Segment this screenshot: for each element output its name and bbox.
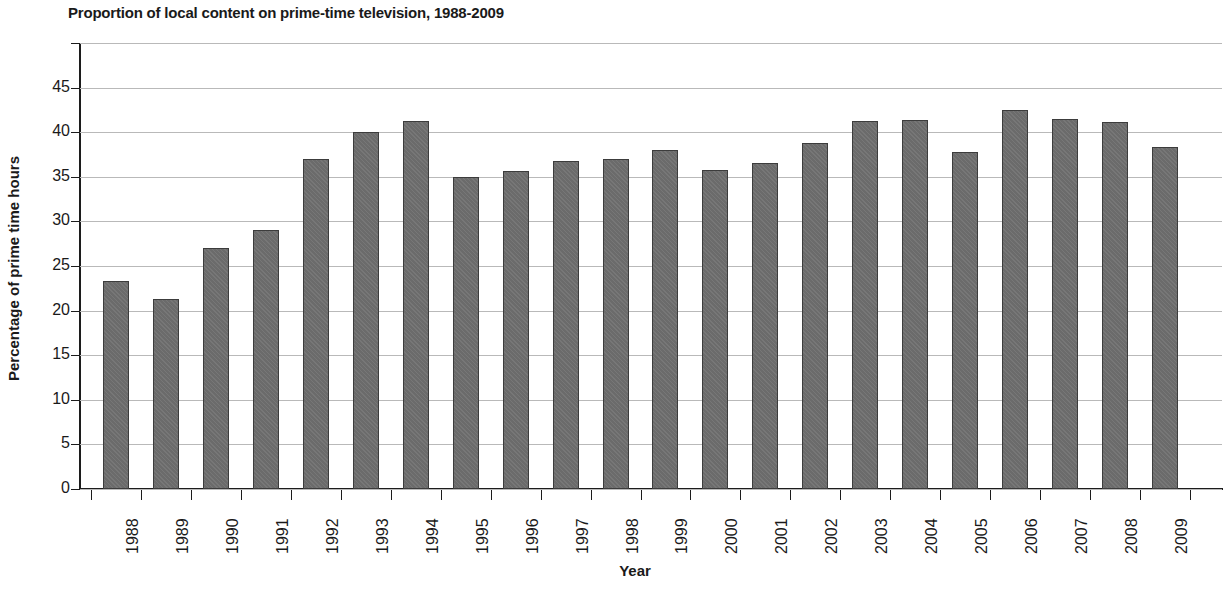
x-axis-tick-mark [291,490,292,500]
bar [852,121,878,489]
bar [1102,122,1128,489]
y-axis-tick-mark [71,43,80,44]
x-axis-tick-mark [1040,490,1041,500]
x-axis-tick-label-text: 1995 [474,518,492,554]
x-axis-tick-label: 2009 [1155,504,1175,556]
x-axis-tick-mark [990,490,991,500]
x-axis-tick-label: 1999 [655,504,675,556]
x-axis-tick-mark [1190,490,1191,500]
x-axis-tick-label: 1996 [506,504,526,556]
x-axis-tick-label: 2001 [755,504,775,556]
x-axis-tick-label: 2008 [1105,504,1125,556]
x-axis-tick-label-text: 2004 [923,518,941,554]
y-axis-tick-label: 45 [42,78,70,96]
y-axis-tick: 40 [32,122,70,142]
x-axis-tick-label-text: 1996 [524,518,542,554]
y-axis-tick-mark [71,88,80,89]
bar [153,299,179,489]
y-axis-tick-label: 40 [42,122,70,140]
y-axis-tick-mark [71,355,80,356]
bar [603,159,629,489]
x-axis-tick-mark [940,490,941,500]
bar [902,120,928,489]
bar [303,159,329,489]
gridline [79,177,1222,178]
bar [353,132,379,489]
x-axis-tick-mark [591,490,592,500]
x-axis-tick-label-text: 2001 [773,518,791,554]
gridline [79,400,1222,401]
bar [652,150,678,489]
y-axis-tick-mark [71,489,80,490]
gridline [79,88,1222,89]
x-axis-tick-label: 1998 [606,504,626,556]
y-axis-tick-label: 25 [42,256,70,274]
x-axis-tick-label-text: 2002 [823,518,841,554]
x-axis-tick-mark [890,490,891,500]
gridline [79,221,1222,222]
y-axis-tick-label: 20 [42,301,70,319]
x-axis-tick-mark [491,490,492,500]
x-axis-tick-label-text: 1991 [274,518,292,554]
bar [503,171,529,489]
y-axis-tick: 35 [32,167,70,187]
x-axis-tick-label-text: 1997 [574,518,592,554]
chart-figure: Proportion of local content on prime-tim… [0,0,1230,600]
x-axis-tick-label: 2004 [905,504,925,556]
x-axis-tick-mark [541,490,542,500]
y-axis-tick-mark [71,177,80,178]
x-axis-tick-label: 1995 [456,504,476,556]
x-axis-tick-label-text: 2005 [973,518,991,554]
x-axis-tick-mark [241,490,242,500]
x-axis-tick-label-text: 2000 [723,518,741,554]
y-axis-tick-mark [71,266,80,267]
x-axis-tick-label-text: 1999 [673,518,691,554]
plot-area [79,43,1222,489]
x-axis-tick-label: 1989 [156,504,176,556]
bar [952,152,978,489]
x-axis-tick-label: 1997 [556,504,576,556]
x-axis-tick-mark [690,490,691,500]
y-axis-tick: 25 [32,256,70,276]
bar [1052,119,1078,489]
x-axis-tick-label-text: 2007 [1073,518,1091,554]
y-axis-tick-label: 15 [42,345,70,363]
x-axis-tick-label: 2006 [1005,504,1025,556]
x-axis-tick-label: 2002 [805,504,825,556]
x-axis-tick-label: 1994 [406,504,426,556]
x-axis-tick-mark [341,490,342,500]
y-axis-tick-label: 5 [42,434,70,452]
y-axis-tick-label: 30 [42,211,70,229]
x-axis-label-text: Year [619,562,651,579]
y-axis-tick-mark [71,444,80,445]
y-axis-tick-label: 10 [42,390,70,408]
chart-title: Proportion of local content on prime-tim… [68,4,504,21]
bar [103,281,129,489]
x-axis-tick-mark [740,490,741,500]
x-axis-tick-mark [790,490,791,500]
x-axis-tick-label-text: 1993 [374,518,392,554]
y-axis-tick: 10 [32,390,70,410]
x-axis-tick-label-text: 2006 [1023,518,1041,554]
y-axis-tick: 20 [32,301,70,321]
bar [752,163,778,489]
gridline [79,43,1222,44]
x-axis-tick-label: 2007 [1055,504,1075,556]
y-axis-tick-label: 0 [42,479,70,497]
x-axis-tick-label: 1993 [356,504,376,556]
x-axis-tick-label-text: 2009 [1173,518,1191,554]
gridline [79,355,1222,356]
bar [802,143,828,489]
x-axis-tick-label: 2005 [955,504,975,556]
y-axis-tick: 0 [32,479,70,499]
bar [253,230,279,489]
x-axis-tick-label-text: 1994 [424,518,442,554]
bar [403,121,429,489]
x-axis-tick-label-text: 1989 [174,518,192,554]
y-axis-tick: 15 [32,345,70,365]
bar [203,248,229,489]
bar [702,170,728,489]
y-axis-tick: 45 [32,78,70,98]
x-axis-tick-mark [840,490,841,500]
x-axis-tick-label: 1991 [256,504,276,556]
